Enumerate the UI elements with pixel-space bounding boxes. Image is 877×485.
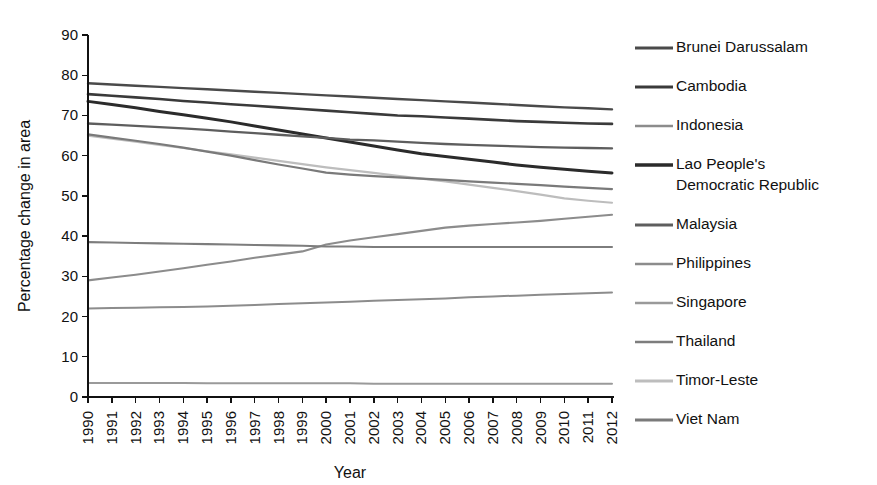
legend-label: Malaysia bbox=[676, 215, 738, 232]
legend-label: Timor-Leste bbox=[676, 371, 758, 388]
legend-label: Philippines bbox=[676, 254, 751, 271]
x-tick-label: 2012 bbox=[603, 411, 620, 444]
legend-label: Cambodia bbox=[676, 77, 747, 94]
x-tick-label: 1990 bbox=[79, 411, 96, 444]
x-tick-label: 2004 bbox=[412, 411, 429, 444]
y-tick-label: 80 bbox=[61, 66, 78, 83]
plot-area bbox=[88, 83, 612, 383]
chart-svg: 0102030405060708090199019911992199319941… bbox=[0, 0, 877, 485]
x-tick-label: 2001 bbox=[341, 411, 358, 444]
series-line-cambodia bbox=[88, 94, 612, 124]
x-tick-label: 1991 bbox=[103, 411, 120, 444]
x-tick-label: 2003 bbox=[389, 411, 406, 444]
legend-label: Indonesia bbox=[676, 116, 744, 133]
x-tick-label: 2008 bbox=[508, 411, 525, 444]
x-tick-label: 2000 bbox=[317, 411, 334, 444]
chart-figure: 0102030405060708090199019911992199319941… bbox=[0, 0, 877, 485]
x-tick-label: 2002 bbox=[365, 411, 382, 444]
y-tick-label: 60 bbox=[61, 147, 78, 164]
x-tick-label: 1999 bbox=[293, 411, 310, 444]
x-tick-label: 1993 bbox=[150, 411, 167, 444]
y-tick-label: 70 bbox=[61, 106, 78, 123]
x-tick-label: 2011 bbox=[579, 411, 596, 443]
x-tick-label: 1998 bbox=[270, 411, 287, 444]
y-tick-label: 30 bbox=[61, 267, 78, 284]
legend-label: Viet Nam bbox=[676, 410, 739, 427]
series-line-brunei-darussalam bbox=[88, 83, 612, 109]
x-tick-label: 2005 bbox=[436, 411, 453, 444]
x-tick-label: 1994 bbox=[174, 411, 191, 444]
y-tick-label: 40 bbox=[61, 227, 78, 244]
legend-label-line2: Democratic Republic bbox=[676, 176, 819, 193]
x-tick-label: 1997 bbox=[246, 411, 263, 444]
x-axis-title: Year bbox=[334, 464, 367, 481]
y-tick-label: 0 bbox=[70, 388, 78, 405]
axes-layer bbox=[82, 35, 614, 403]
x-tick-label: 2010 bbox=[555, 411, 572, 444]
legend-label: Thailand bbox=[676, 332, 735, 349]
x-tick-label: 2007 bbox=[484, 411, 501, 444]
x-tick-label: 1996 bbox=[222, 411, 239, 444]
x-tick-label: 2006 bbox=[460, 411, 477, 444]
series-line-singapore bbox=[88, 383, 612, 384]
legend-label: Brunei Darussalam bbox=[676, 38, 808, 55]
y-tick-label: 20 bbox=[61, 308, 78, 325]
legend-label: Singapore bbox=[676, 293, 747, 310]
y-axis-title: Percentage change in area bbox=[16, 120, 33, 312]
y-tick-label: 90 bbox=[61, 26, 78, 43]
legend-label: Lao People's bbox=[676, 155, 765, 172]
y-tick-label: 10 bbox=[61, 348, 78, 365]
series-line-thailand bbox=[88, 242, 612, 247]
x-tick-label: 2009 bbox=[532, 411, 549, 444]
series-line-indonesia bbox=[88, 292, 612, 308]
x-tick-label: 1992 bbox=[127, 411, 144, 444]
x-tick-label: 1995 bbox=[198, 411, 215, 444]
y-tick-label: 50 bbox=[61, 187, 78, 204]
chart-legend: Brunei DarussalamCambodiaIndonesiaLao Pe… bbox=[635, 38, 819, 427]
